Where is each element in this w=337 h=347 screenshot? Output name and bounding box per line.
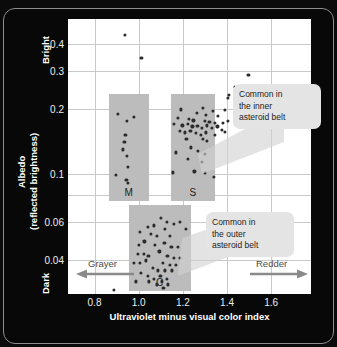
y-tick-label: 0.04 (45, 255, 64, 266)
x-axis-title: Ultraviolet minus visual color index (68, 311, 311, 322)
gridline-vertical (95, 19, 96, 294)
redder-label: Redder (256, 258, 287, 269)
y-tick-label: 0.1 (50, 169, 64, 180)
class-label-s: S (171, 187, 215, 198)
data-point (123, 33, 126, 36)
data-point (112, 288, 115, 291)
y-axis-title-line1: Albedo (16, 156, 27, 188)
y-tick-label: 0.06 (45, 217, 64, 228)
inner-belt-callout-line3: asteroid belt (239, 112, 315, 124)
class-label-m: M (109, 187, 149, 198)
gridline-horizontal (68, 71, 311, 72)
grayer-arrow-icon (76, 269, 134, 279)
outer-belt-callout-line2: the outer (212, 229, 288, 241)
x-tick-label: 1.6 (264, 297, 278, 308)
inner-belt-callout-line1: Common in (239, 89, 315, 101)
redder-arrow-icon (250, 269, 308, 279)
outer-belt-callout-line3: asteroid belt (212, 240, 288, 252)
data-point (247, 73, 250, 76)
inner-belt-callout-line2: the inner (239, 101, 315, 113)
grayer-label: Grayer (88, 258, 117, 269)
x-tick-label: 0.8 (88, 297, 102, 308)
gridline-horizontal (68, 44, 311, 45)
y-axis-dark-label: Dark (40, 273, 51, 294)
y-tick-label: 0.4 (50, 38, 64, 49)
x-tick-label: 1.2 (176, 297, 190, 308)
y-axis-title-line2: (reflected brightness) (28, 133, 39, 230)
inner-belt-callout: Common in the inner asteroid belt (233, 84, 321, 129)
outer-belt-callout: Common in the outer asteroid belt (206, 212, 294, 257)
asteroid-albedo-color-figure: Bright Dark Albedo (reflected brightness… (0, 0, 337, 347)
y-tick-label: 0.2 (50, 103, 64, 114)
class-band-m: M (109, 94, 149, 202)
y-tick-label: 0.3 (50, 65, 64, 76)
data-point (140, 57, 143, 60)
x-tick-label: 1.0 (132, 297, 146, 308)
x-tick-label: 1.4 (220, 297, 234, 308)
outer-belt-callout-line1: Common in (212, 217, 288, 229)
